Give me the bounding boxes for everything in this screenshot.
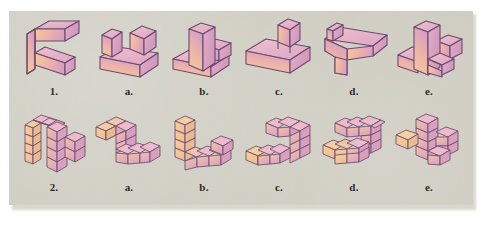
option-1b[interactable]: b. bbox=[167, 13, 241, 109]
option-2e-label: e. bbox=[392, 181, 466, 193]
shape-row-1: 1. bbox=[9, 13, 473, 109]
option-2c-drawing bbox=[242, 107, 316, 181]
prompt-shape-1-drawing bbox=[17, 13, 91, 87]
option-1e[interactable]: e. bbox=[392, 13, 466, 109]
prompt-shape-2-drawing bbox=[17, 107, 91, 181]
option-2b-drawing bbox=[167, 107, 241, 181]
option-2e[interactable]: e. bbox=[392, 107, 466, 203]
option-2a-label: a. bbox=[92, 181, 166, 193]
option-1a-label: a. bbox=[92, 85, 166, 97]
prompt-shape-1-label: 1. bbox=[17, 85, 91, 97]
option-1a-drawing bbox=[92, 13, 166, 87]
prompt-shape-1[interactable]: 1. bbox=[17, 13, 91, 109]
figure-panel: 1. bbox=[9, 11, 473, 205]
option-1c[interactable]: c. bbox=[242, 13, 316, 109]
option-1e-label: e. bbox=[392, 85, 466, 97]
option-1c-drawing bbox=[242, 13, 316, 87]
option-2e-drawing bbox=[392, 107, 466, 181]
option-2d-label: d. bbox=[317, 181, 391, 193]
option-1b-label: b. bbox=[167, 85, 241, 97]
shape-row-2: 2. bbox=[9, 107, 473, 203]
option-1b-drawing bbox=[167, 13, 241, 87]
prompt-shape-2-label: 2. bbox=[17, 181, 91, 193]
option-2d[interactable]: d. bbox=[317, 107, 391, 203]
option-2a-drawing bbox=[92, 107, 166, 181]
option-2c[interactable]: c. bbox=[242, 107, 316, 203]
option-2b[interactable]: b. bbox=[167, 107, 241, 203]
prompt-shape-2[interactable]: 2. bbox=[17, 107, 91, 203]
option-1c-label: c. bbox=[242, 85, 316, 97]
option-1d-label: d. bbox=[317, 85, 391, 97]
option-1d[interactable]: d. bbox=[317, 13, 391, 109]
option-1d-drawing bbox=[317, 13, 391, 87]
option-2a[interactable]: a. bbox=[92, 107, 166, 203]
option-2d-drawing bbox=[317, 107, 391, 181]
option-1e-drawing bbox=[392, 13, 466, 87]
figure-root: 1. bbox=[0, 0, 491, 226]
option-2b-label: b. bbox=[167, 181, 241, 193]
option-1a[interactable]: a. bbox=[92, 13, 166, 109]
option-2c-label: c. bbox=[242, 181, 316, 193]
